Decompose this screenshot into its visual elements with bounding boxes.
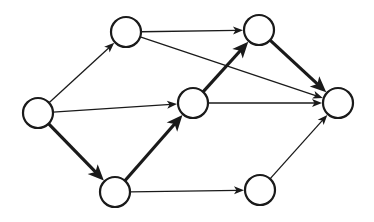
directed-graph-diagram (0, 0, 374, 222)
edge-C-E (270, 40, 326, 92)
edge-A-F (48, 124, 103, 181)
graph-node-D (178, 88, 208, 118)
edge-line (125, 122, 176, 180)
edge-D-E (208, 99, 322, 107)
edge-line (270, 119, 323, 178)
edge-D-C (203, 42, 248, 92)
edge-line (140, 37, 317, 96)
edge-line (130, 190, 238, 191)
edge-line (53, 104, 171, 112)
edge-F-D (125, 115, 183, 181)
graph-node-B (111, 17, 141, 47)
edge-A-D (53, 101, 177, 112)
graph-node-F (100, 177, 130, 207)
edge-G-E (270, 115, 327, 179)
edge-B-E (140, 37, 323, 99)
edge-F-G (130, 186, 244, 194)
graph-node-E (323, 88, 353, 118)
edge-A-B (49, 43, 114, 103)
graph-node-C (244, 15, 274, 45)
edge-line (270, 40, 319, 85)
edge-line (49, 47, 110, 103)
edge-line (48, 124, 97, 174)
graph-node-A (23, 98, 53, 128)
edge-line (203, 49, 242, 92)
edge-B-C (141, 26, 243, 34)
edge-line (141, 30, 237, 31)
graph-node-G (245, 175, 275, 205)
